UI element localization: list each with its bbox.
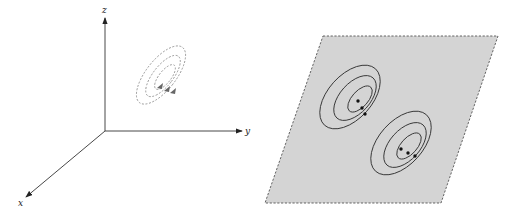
- x-axis-label: x: [18, 198, 23, 208]
- arrow-icon: [413, 154, 416, 157]
- arrow-icon: [399, 147, 402, 150]
- arrow-icon: [157, 83, 163, 89]
- arrow-icon: [406, 151, 409, 154]
- dashed-contour-outer: [128, 38, 195, 112]
- axes-3d: z y x: [18, 5, 251, 208]
- y-axis-label: y: [244, 126, 251, 136]
- arrow-icon: [360, 106, 363, 109]
- plane: [265, 36, 498, 203]
- dashed-contour-middle: [140, 50, 187, 102]
- plane-surface: [265, 36, 498, 203]
- arrow-icon: [170, 88, 176, 94]
- dashed-contours: [128, 38, 195, 112]
- z-axis-label: z: [101, 5, 107, 15]
- arrow-icon: [356, 99, 359, 102]
- dashed-contour-inner: [151, 61, 179, 92]
- x-axis: [26, 131, 105, 197]
- arrow-icon: [363, 112, 366, 115]
- diagram-canvas: z y x: [0, 0, 512, 219]
